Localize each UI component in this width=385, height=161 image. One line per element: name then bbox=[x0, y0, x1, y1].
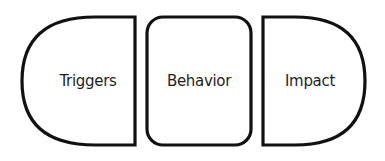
impact-label: Impact bbox=[265, 72, 355, 90]
triggers-label: Triggers bbox=[38, 72, 138, 90]
behavior-label: Behavior bbox=[147, 72, 251, 90]
